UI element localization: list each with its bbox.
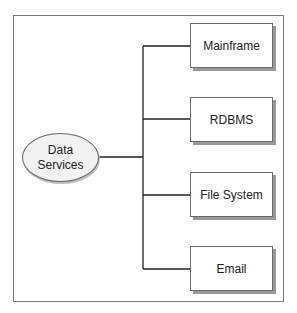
mainframe-label: Mainframe [203,39,260,53]
mainframe-node: Mainframe [190,23,273,68]
email-label: Email [216,262,246,276]
file-system-node: File System [190,172,273,217]
file-system-label: File System [200,188,263,202]
rdbms-node: RDBMS [190,97,273,142]
email-node: Email [190,246,273,291]
data-services-label-line2: Services [37,158,83,173]
data-services-node: Data Services [22,133,99,182]
data-services-label-line1: Data [48,143,73,158]
rdbms-label: RDBMS [210,113,253,127]
